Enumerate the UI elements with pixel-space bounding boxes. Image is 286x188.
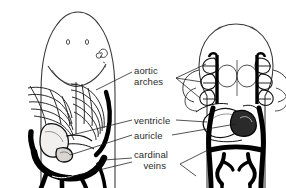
label-cardinal-veins-line1: cardinal [134,150,168,161]
right-pharynx-left [217,65,237,87]
leader-cardinal-right-2 [180,164,196,176]
leader-cardinal-right-1 [180,150,208,164]
left-cardinal-vein-upper-left [31,132,34,152]
right-panel [183,24,286,188]
leader-ventricle-right [176,120,207,122]
label-cardinal-veins: cardinal veins [134,150,168,171]
label-ventricle-text: ventricle [134,116,170,127]
label-aortic-arches: aortic arches [134,66,163,87]
label-aortic-arches-line2: arches [134,77,163,88]
label-auricle: auricle [134,131,163,142]
label-aortic-arches-line1: aortic [134,66,163,77]
left-panel [28,12,115,188]
label-cardinal-veins-line2: veins [134,161,168,172]
anatomy-figure: aortic arches ventricle auricle cardinal… [0,0,286,188]
right-flange-right [273,70,286,102]
right-pharynx-right [237,65,257,87]
label-auricle-text: auricle [134,131,163,142]
label-ventricle: ventricle [134,116,170,127]
right-auricle [230,110,256,136]
